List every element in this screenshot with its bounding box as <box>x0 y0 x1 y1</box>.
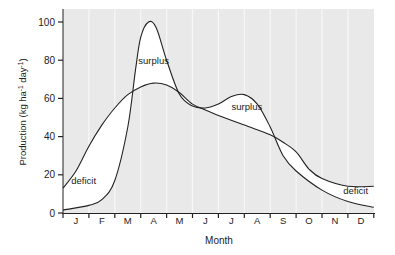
y-tick-label: 80 <box>44 55 56 66</box>
x-tick-label: A <box>150 215 157 226</box>
y-tick-label: 100 <box>38 17 55 28</box>
y-tick-label: 20 <box>44 169 56 180</box>
production-chart: surplussurplusdeficitdeficit 02040608010… <box>0 0 395 255</box>
x-tick-label: M <box>176 215 184 226</box>
x-tick-label: F <box>99 215 105 226</box>
x-tick-label: D <box>357 215 364 226</box>
x-tick-label: S <box>280 215 286 226</box>
x-tick-label: N <box>332 215 339 226</box>
x-tick-label: J <box>203 215 208 226</box>
x-axis-ticks: JFMAMJJASOND <box>63 213 374 226</box>
x-tick-label: M <box>124 215 132 226</box>
x-tick-label: O <box>305 215 312 226</box>
y-tick-label: 40 <box>44 131 56 142</box>
annotation-surplus: surplus <box>232 101 263 112</box>
annotation-deficit: deficit <box>71 175 96 186</box>
x-tick-label: J <box>74 215 79 226</box>
y-tick-label: 60 <box>44 93 56 104</box>
x-axis-label: Month <box>205 235 233 246</box>
y-tick-label: 0 <box>49 208 55 219</box>
y-axis-ticks: 020406080100 <box>38 17 63 219</box>
x-tick-label: J <box>229 215 234 226</box>
annotation-deficit: deficit <box>343 185 368 196</box>
annotation-surplus: surplus <box>138 55 169 66</box>
x-tick-label: A <box>254 215 261 226</box>
y-axis-label: Production (kg ha-1 day-1) <box>17 58 28 165</box>
